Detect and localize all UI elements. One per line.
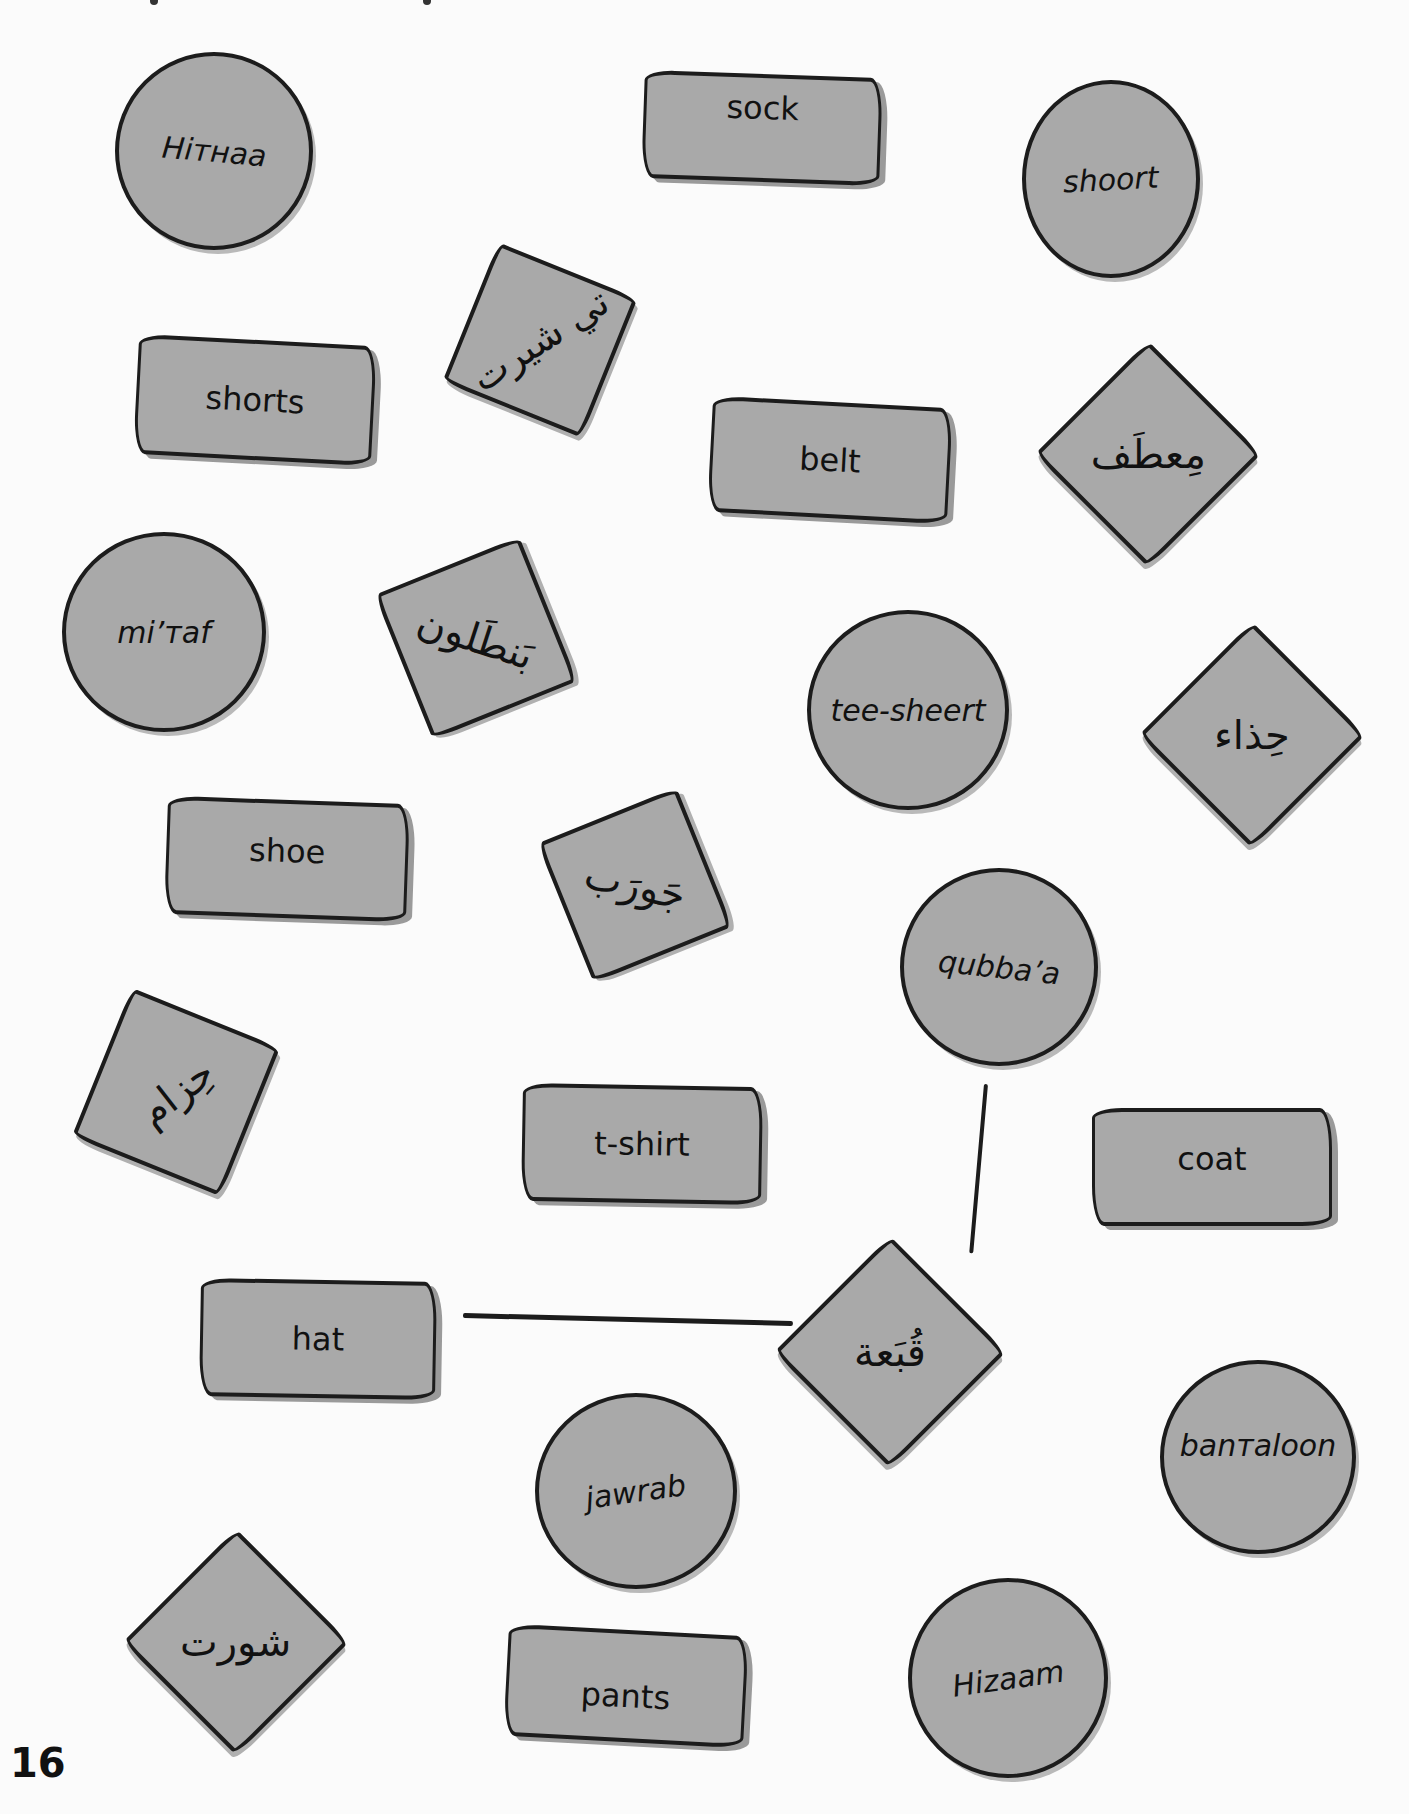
rect-card-pants[interactable]: pants — [503, 1624, 749, 1748]
card-label: t-shirt — [594, 1124, 690, 1164]
circle-card-hithaa[interactable]: Hiтнaa — [115, 52, 313, 250]
arabic-card-qubbaa[interactable]: قُبَعة — [774, 1236, 1006, 1468]
card-label: shorts — [205, 378, 306, 421]
card-label: jawrab — [584, 1467, 689, 1516]
card-label: Hizaam — [950, 1653, 1066, 1703]
arabic-card-tee-shirt[interactable]: تي شيرت — [442, 242, 637, 437]
arabic-card-hithaa[interactable]: حِذاء — [1139, 622, 1365, 848]
arabic-card-bantaloon[interactable]: بَنطَلون — [374, 536, 577, 739]
edge-mark — [423, 0, 431, 5]
card-label: حِزام — [129, 1048, 222, 1135]
circle-card-bantaloon[interactable]: banтaloon — [1160, 1360, 1356, 1554]
card-label: جَورَب — [580, 851, 690, 919]
rect-card-belt[interactable]: belt — [707, 396, 953, 524]
card-label: شورت — [180, 1619, 291, 1665]
circle-card-tee-sheert[interactable]: tee-sheert — [807, 610, 1009, 810]
rect-card-hat[interactable]: hat — [199, 1278, 437, 1400]
card-label: بَنطَلون — [412, 598, 540, 679]
card-label: تي شيرت — [463, 280, 616, 401]
rect-card-sock[interactable]: sock — [641, 70, 883, 186]
card-label: banтaloon — [1180, 1428, 1336, 1463]
card-label: coat — [1177, 1140, 1246, 1178]
circle-card-mitaf[interactable]: mi’тaf — [62, 532, 266, 732]
circle-card-hizaam[interactable]: Hizaam — [908, 1578, 1108, 1778]
circle-card-jawrab[interactable]: jawrab — [535, 1393, 737, 1589]
card-label: Hiтнaa — [160, 129, 267, 173]
rect-card-tshirt[interactable]: t-shirt — [521, 1083, 763, 1205]
card-label: mi’тaf — [117, 615, 211, 650]
card-label: hat — [291, 1320, 344, 1359]
rect-card-coat[interactable]: coat — [1092, 1108, 1332, 1226]
arabic-card-mitaf[interactable]: مِعطَف — [1035, 341, 1261, 567]
edge-mark — [150, 0, 158, 5]
card-label: حِذاء — [1214, 712, 1290, 758]
card-label: pants — [580, 1675, 671, 1718]
card-label: shoe — [249, 831, 326, 872]
circle-card-shoort[interactable]: shoort — [1022, 80, 1200, 278]
card-label: belt — [798, 439, 861, 480]
top-edge-marks — [0, 0, 1409, 6]
card-label: قُبَعة — [854, 1329, 926, 1375]
card-label: shoort — [1062, 159, 1159, 199]
connection-line-hat-to-qubbaa — [463, 1313, 793, 1326]
card-label: tee-sheert — [830, 693, 985, 728]
card-label: مِعطَف — [1091, 431, 1206, 477]
rect-card-shorts[interactable]: shorts — [133, 334, 377, 466]
page-number: 16 — [10, 1740, 66, 1786]
arabic-card-jawrab[interactable]: جَورَب — [537, 787, 732, 982]
card-label: qubba’a — [936, 943, 1061, 991]
card-label: sock — [726, 88, 800, 129]
rect-card-shoe[interactable]: shoe — [164, 796, 410, 922]
arabic-card-shoort[interactable]: شورت — [123, 1529, 349, 1755]
arabic-card-hizaam[interactable]: حِزام — [72, 988, 280, 1196]
circle-card-qubbaa[interactable]: qubba’a — [900, 868, 1098, 1066]
connection-line-qubbaa-to-qubbaa-ar — [969, 1084, 988, 1254]
